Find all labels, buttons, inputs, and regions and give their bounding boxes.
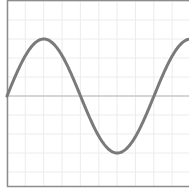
grid-lines <box>7 1 189 186</box>
sine-wave-chart <box>0 0 189 190</box>
